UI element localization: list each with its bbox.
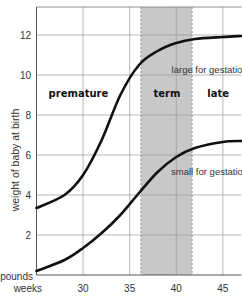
region-label-term: term: [153, 88, 180, 99]
y-tick-label: 4: [25, 190, 31, 201]
small-for-gestation-label: small for gestation: [171, 166, 242, 177]
y-tick-label: 12: [20, 30, 32, 41]
axes: 3035404524681012poundsweeksweight of bab…: [0, 7, 241, 294]
y-tick-label: 10: [20, 70, 32, 81]
small-for-gestation-line: [37, 141, 242, 271]
birth-weight-chart: 3035404524681012poundsweeksweight of bab…: [0, 0, 242, 300]
gridlines: [37, 7, 242, 275]
y-unit-label: pounds: [0, 271, 33, 282]
x-tick-label: 45: [217, 283, 229, 294]
large-for-gestation-line: [37, 36, 242, 208]
y-axis-label: weight of baby at birth: [9, 108, 21, 212]
y-tick-label: 8: [25, 110, 31, 121]
x-tick-label: 35: [124, 283, 136, 294]
x-tick-label: 30: [78, 283, 90, 294]
region-label-premature: premature: [49, 88, 109, 99]
x-tick-label: 40: [171, 283, 183, 294]
y-tick-label: 2: [25, 230, 31, 241]
region-label-late: late: [207, 88, 229, 99]
large-for-gestation-label: large for gestation: [172, 64, 242, 75]
y-tick-label: 6: [25, 150, 31, 161]
x-axis-label: weeks: [13, 283, 42, 294]
